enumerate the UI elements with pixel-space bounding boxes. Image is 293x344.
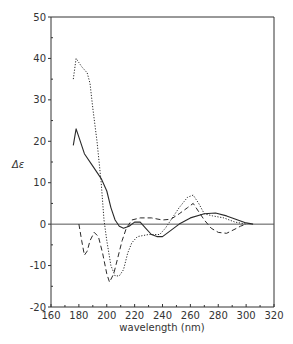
x-tick-label: 300	[237, 310, 256, 321]
x-axis-label: wavelength (nm)	[119, 322, 204, 333]
series-dotted-line	[73, 58, 246, 276]
x-tick-label: 240	[153, 310, 172, 321]
x-tick-label: 280	[209, 310, 228, 321]
x-tick-label: 160	[41, 310, 60, 321]
y-tick-label: 0	[40, 219, 46, 230]
y-tick-label: -10	[30, 260, 46, 271]
plot-frame	[51, 17, 274, 307]
x-tick-label: 220	[125, 310, 144, 321]
y-tick-label: 50	[33, 12, 46, 23]
series-solid-line	[73, 129, 253, 237]
x-tick-label: 260	[181, 310, 200, 321]
x-tick-label: 180	[69, 310, 88, 321]
data-series	[73, 58, 253, 282]
cd-spectrum-chart: -20-1001020304050 1601802002202402602803…	[0, 0, 293, 344]
y-tick-label: 20	[33, 136, 46, 147]
y-axis-label: Δε	[11, 159, 25, 170]
x-tick-label: 200	[97, 310, 116, 321]
x-tick-label: 320	[264, 310, 283, 321]
y-tick-label: 10	[33, 177, 46, 188]
y-axis-ticks: -20-1001020304050	[30, 12, 53, 313]
y-tick-label: 40	[33, 53, 46, 64]
y-tick-label: 30	[33, 94, 46, 105]
